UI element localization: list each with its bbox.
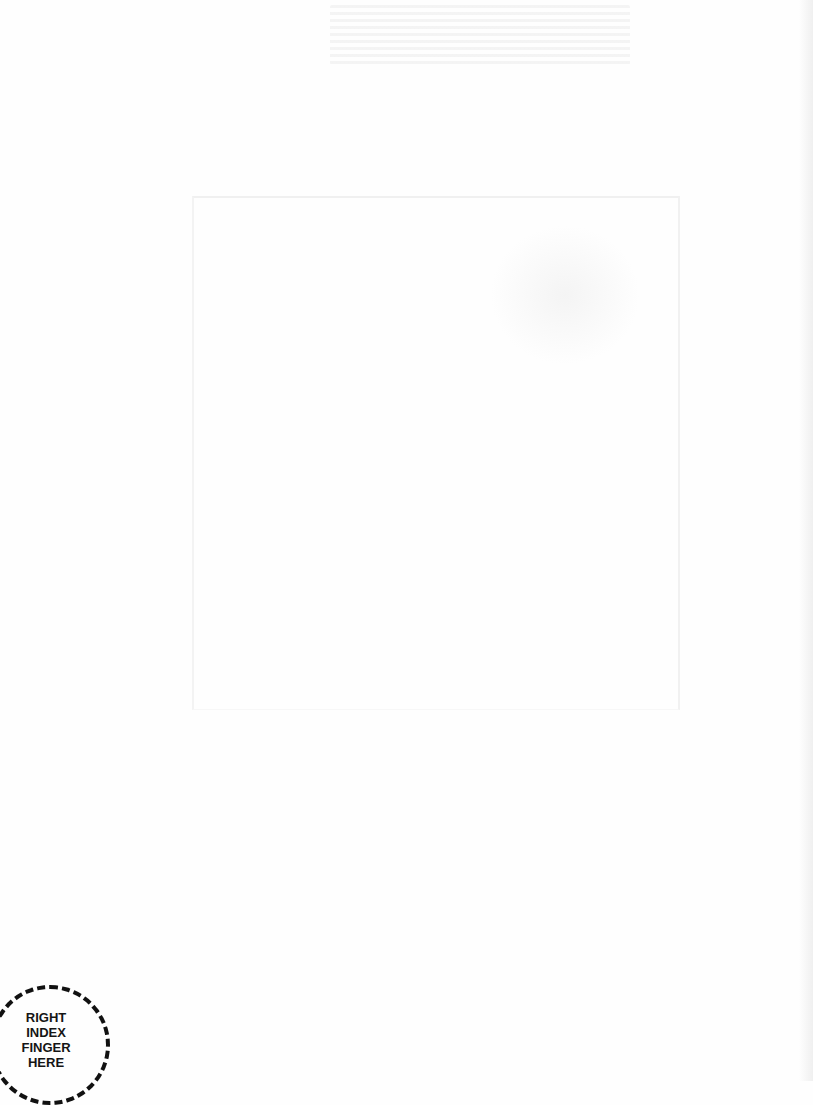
page-edge-shadow — [799, 0, 813, 1081]
bleed-through-text — [330, 5, 630, 65]
faint-smudge — [490, 225, 640, 365]
finger-placement-label: RIGHT INDEX FINGER HERE — [12, 1010, 80, 1070]
